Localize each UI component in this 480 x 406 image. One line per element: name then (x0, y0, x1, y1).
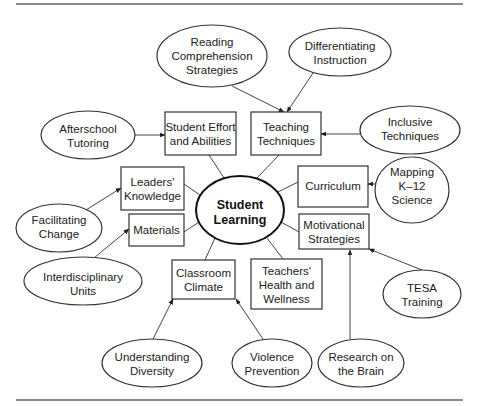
label-line: Change (39, 228, 79, 240)
factor-classroom-climate: Classroom Climate (172, 260, 235, 299)
factor-materials: Materials (129, 214, 184, 246)
label-line: Classroom (176, 267, 231, 279)
label-line: Knowledge (124, 190, 181, 202)
center-student-learning: Student Learning (196, 176, 284, 244)
label-line: Facilitating (32, 214, 87, 226)
factor-leaders-knowledge: Leaders' Knowledge (121, 167, 184, 210)
label-line: Teachers' (262, 265, 311, 277)
label-line: Tutoring (67, 137, 109, 149)
factor-teaching-techniques: Teaching Techniques (251, 112, 321, 155)
label-line: Curriculum (305, 180, 361, 192)
label-line: Research on (328, 351, 393, 363)
label-line: Differentiating (305, 40, 376, 52)
label-line: Units (70, 285, 96, 297)
concept-map: Reading Comprehension Strategies Differe… (0, 0, 480, 406)
label-line: Comprehension (171, 50, 252, 62)
initiative-differentiating-instruction: Differentiating Instruction (289, 28, 391, 76)
label-line: Inclusive (388, 116, 433, 128)
label-line: Leaders' (131, 176, 175, 188)
initiative-research-brain: Research on the Brain (318, 339, 404, 387)
label-line: Instruction (313, 54, 366, 66)
label-line: Techniques (381, 130, 439, 142)
initiative-reading-comprehension: Reading Comprehension Strategies (157, 25, 267, 87)
label-line: Strategies (308, 233, 360, 245)
initiative-understanding-diversity: Understanding Diversity (102, 339, 202, 387)
factor-teachers-health: Teachers' Health and Wellness (251, 259, 322, 309)
initiative-mapping-k12: Mapping K–12 Science (375, 157, 449, 223)
label-line: Prevention (245, 365, 300, 377)
label-line: Climate (184, 281, 223, 293)
label-line: the Brain (338, 365, 384, 377)
center-label-line: Student (217, 198, 264, 212)
center-label-line: Learning (214, 213, 267, 227)
label-line: Student Effort (165, 121, 236, 133)
label-line: Health and (259, 279, 315, 291)
label-line: Reading (191, 36, 234, 48)
diagram-svg: Reading Comprehension Strategies Differe… (0, 0, 480, 406)
label-line: Mapping (390, 166, 434, 178)
label-line: Violence (250, 351, 294, 363)
label-line: Afterschool (59, 123, 117, 135)
initiative-afterschool-tutoring: Afterschool Tutoring (41, 111, 135, 159)
label-line: Wellness (263, 293, 310, 305)
label-line: Materials (133, 224, 180, 236)
factor-student-effort: Student Effort and Abilities (165, 112, 236, 155)
initiative-interdisciplinary-units: Interdisciplinary Units (24, 257, 142, 305)
initiative-tesa-training: TESA Training (383, 270, 461, 318)
initiative-inclusive-techniques: Inclusive Techniques (360, 106, 460, 154)
factor-curriculum: Curriculum (298, 166, 368, 207)
label-line: Training (401, 296, 442, 308)
label-line: TESA (407, 282, 437, 294)
initiative-facilitating-change: Facilitating Change (16, 204, 102, 252)
label-line: Motivational (303, 219, 364, 231)
label-line: K–12 (399, 180, 426, 192)
label-line: Diversity (130, 365, 174, 377)
label-line: and Abilities (170, 135, 232, 147)
label-line: Teaching (263, 121, 309, 133)
label-line: Understanding (115, 351, 190, 363)
label-line: Science (392, 194, 433, 206)
label-line: Interdisciplinary (43, 271, 123, 283)
initiative-violence-prevention: Violence Prevention (232, 339, 312, 387)
label-line: Techniques (257, 135, 315, 147)
label-line: Strategies (186, 64, 238, 76)
factor-motivational-strategies: Motivational Strategies (299, 214, 369, 249)
